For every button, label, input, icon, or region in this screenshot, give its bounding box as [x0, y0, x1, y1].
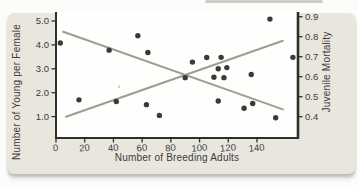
scatter-chart: 0204060801001201405.04.03.02.01.00.90.80… — [0, 0, 358, 186]
right-y-tick-label: 0.4 — [305, 111, 318, 122]
data-point — [241, 106, 246, 111]
left-y-tick-label: 3.0 — [36, 63, 49, 74]
data-point — [216, 98, 221, 103]
left-y-tick-label: 2.0 — [36, 87, 49, 98]
data-point — [216, 66, 221, 71]
data-point — [106, 47, 111, 52]
x-axis-title: Number of Breeding Adults — [115, 152, 240, 163]
data-point — [290, 55, 295, 60]
figure-scan: 0204060801001201405.04.03.02.01.00.90.80… — [0, 0, 358, 186]
data-point — [218, 55, 223, 60]
data-point — [204, 55, 209, 60]
right-y-tick-label: 0.5 — [305, 91, 318, 102]
x-tick-label: 0 — [53, 142, 59, 153]
print-artifact-speck — [118, 86, 120, 88]
data-point — [221, 75, 226, 80]
left-y-axis-title: Number of Young per Female — [11, 24, 22, 160]
data-point — [58, 40, 63, 45]
data-point — [224, 65, 229, 70]
data-point — [145, 50, 150, 55]
data-point — [135, 33, 140, 38]
data-point — [114, 99, 119, 104]
right-y-tick-label: 0.7 — [305, 51, 318, 62]
left-y-tick-label: 4.0 — [36, 39, 49, 50]
right-y-tick-label: 0.6 — [305, 71, 318, 82]
x-tick-label: 140 — [248, 141, 265, 153]
x-tick-label: 20 — [79, 142, 90, 154]
data-point — [249, 72, 254, 77]
left-y-tick-label: 1.0 — [36, 111, 49, 122]
data-point — [190, 59, 195, 64]
plot-area — [56, 12, 298, 138]
data-point — [76, 97, 81, 102]
data-point — [183, 75, 188, 80]
data-point — [250, 101, 255, 106]
data-point — [144, 102, 149, 107]
left-y-tick-label: 5.0 — [36, 15, 49, 26]
data-point — [211, 74, 216, 79]
data-point — [273, 115, 278, 120]
right-y-axis-title: Juvenile Mortality — [321, 32, 332, 113]
right-y-tick-label: 0.9 — [305, 11, 318, 22]
data-point — [267, 16, 272, 21]
data-point — [157, 113, 162, 118]
right-y-tick-label: 0.8 — [305, 31, 318, 42]
